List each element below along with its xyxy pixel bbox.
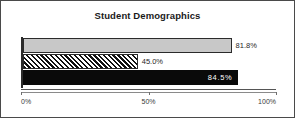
- x-axis-tick: [21, 92, 22, 95]
- chart-title: Student Demographics: [1, 10, 294, 21]
- x-axis-tick-label: 50%: [141, 98, 155, 105]
- bar-value-label-series-3: 84.5%: [23, 70, 238, 85]
- value-axis-line: [21, 89, 276, 90]
- plot-area: 81.8% 45.0% 84.5%: [21, 37, 276, 88]
- x-axis-tick: [149, 92, 150, 95]
- bar-value-label-series-2: 45.0%: [138, 54, 163, 69]
- x-axis-tick-label: 0%: [21, 98, 31, 105]
- x-axis-tick-label: 100%: [258, 98, 276, 105]
- x-axis-tick: [276, 92, 277, 95]
- bar-series-2: [23, 54, 138, 69]
- bar-value-label-series-1: 81.8%: [232, 38, 257, 53]
- bar-series-1: [23, 38, 232, 53]
- chart-frame: Student Demographics 81.8% 45.0% 84.5% 0…: [0, 0, 295, 118]
